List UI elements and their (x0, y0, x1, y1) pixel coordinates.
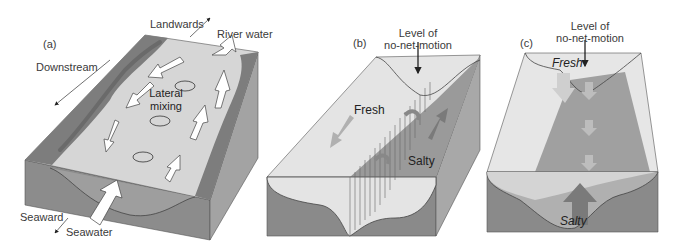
panel-c-label: (c) (520, 37, 533, 49)
panel-c-fresh-label: Fresh (552, 57, 583, 69)
panel-c-salty-label: Salty (560, 215, 587, 227)
panel-c-level-label-1: Level of (552, 20, 628, 32)
lateral-mixing-label-1: Lateral (141, 87, 191, 99)
panel-b-fresh-label: Fresh (354, 104, 385, 116)
panel-c-level-label-2: no-net-motion (552, 32, 628, 44)
panel-a (25, 18, 258, 240)
panel-b (267, 42, 480, 236)
downstream-label: Downstream (36, 61, 98, 73)
panel-b-level-label-1: Level of (380, 27, 456, 39)
panel-a-label: (a) (43, 38, 56, 50)
panel-b-label: (b) (353, 37, 366, 49)
seawater-label: Seawater (66, 226, 112, 238)
landwards-label: Landwards (150, 18, 204, 30)
panel-b-salty-label: Salty (408, 155, 435, 167)
seaward-label: Seaward (20, 211, 63, 223)
lateral-mixing-label-2: mixing (141, 100, 191, 112)
river-water-label: River water (217, 28, 273, 40)
panel-b-level-label-2: no-net-motion (380, 39, 456, 51)
